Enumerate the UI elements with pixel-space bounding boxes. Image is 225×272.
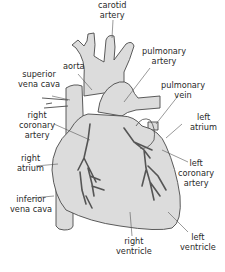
label-inferior-vena-cava: inferior vena cava (10, 194, 52, 214)
label-pulmonary-artery: pulmonary artery (142, 46, 186, 66)
label-carotid-artery: carotid artery (98, 0, 126, 20)
label-pulmonary-vein: pulmonary vein (161, 80, 205, 100)
label-right-atrium: right atrium (17, 153, 44, 173)
label-left-coronary-artery: left coronary artery (178, 158, 214, 188)
label-right-ventricle: right ventricle (116, 236, 152, 256)
label-right-coronary-artery: right coronary artery (19, 110, 55, 140)
right-pulmonary-vein-shape (42, 98, 68, 108)
label-aorta: aorta (63, 61, 85, 71)
label-left-atrium: left atrium (190, 112, 217, 132)
label-superior-vena-cava: superior vena cava (18, 69, 60, 89)
label-left-ventricle: left ventricle (180, 232, 216, 252)
